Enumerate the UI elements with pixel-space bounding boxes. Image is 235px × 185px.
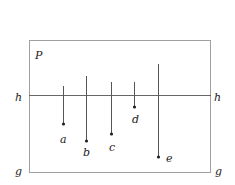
endpoint-a xyxy=(62,122,65,125)
g-label-left: g xyxy=(15,165,22,178)
endpoint-e xyxy=(157,155,160,158)
diagram-canvas: P h h g g abcde xyxy=(0,0,235,185)
stem-label-a: a xyxy=(60,133,67,146)
h-label-right: h xyxy=(214,91,221,104)
endpoint-d xyxy=(133,105,136,108)
stem-label-c: c xyxy=(109,141,115,154)
stem-label-d: d xyxy=(132,113,139,126)
frame-label: P xyxy=(34,49,43,62)
g-label-right: g xyxy=(215,165,222,178)
stem-label-b: b xyxy=(83,146,90,159)
endpoint-b xyxy=(85,139,88,142)
h-label-left: h xyxy=(15,91,22,104)
stems-group: abcde xyxy=(60,64,173,165)
frame-P xyxy=(30,41,211,173)
endpoint-c xyxy=(110,132,113,135)
stem-label-e: e xyxy=(166,152,173,165)
